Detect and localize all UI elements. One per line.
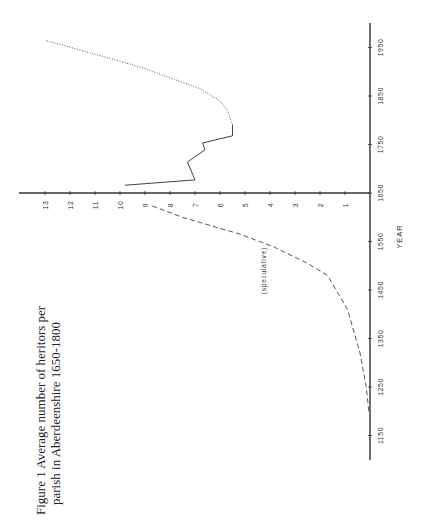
- value-tick-label: 9: [142, 203, 149, 207]
- series-later: [45, 40, 233, 125]
- figure-title-line2: parish in Aberdeenshire 1650-1800: [48, 322, 63, 505]
- year-tick-label: 1850: [377, 87, 384, 105]
- series-speculative: [150, 205, 369, 411]
- year-tick-label: 1750: [377, 136, 384, 154]
- year-tick-label: 1650: [377, 184, 384, 202]
- value-tick-label: 1: [342, 203, 349, 207]
- tick-labels: 1234567891011121311501250135014501550165…: [42, 39, 385, 444]
- data-series: [45, 40, 369, 411]
- value-tick-label: 13: [42, 201, 49, 210]
- value-tick-label: 5: [242, 203, 249, 207]
- heritors-chart: Figure 1 Average number of heritors per …: [0, 0, 424, 521]
- figure-title-line1: Figure 1 Average number of heritors per: [33, 305, 48, 515]
- axes: [19, 23, 372, 460]
- speculative-annotation: (speculative): [260, 247, 268, 294]
- value-tick-label: 11: [92, 201, 99, 209]
- value-tick-label: 6: [217, 203, 224, 207]
- value-tick-label: 12: [67, 201, 74, 210]
- value-tick-label: 7: [192, 203, 199, 207]
- year-tick-label: 1250: [377, 378, 384, 396]
- value-tick-label: 3: [292, 203, 299, 207]
- value-tick-label: 8: [167, 203, 174, 207]
- year-tick-label: 1950: [377, 39, 384, 57]
- value-tick-label: 10: [117, 201, 124, 210]
- year-tick-label: 1350: [377, 330, 384, 348]
- x-axis-title: YEAR: [395, 224, 404, 248]
- year-tick-label: 1150: [377, 427, 384, 444]
- figure-title: Figure 1 Average number of heritors per …: [33, 305, 63, 515]
- value-tick-label: 4: [267, 203, 274, 207]
- year-tick-label: 1450: [377, 281, 384, 299]
- series-recorded: [125, 125, 233, 185]
- value-tick-label: 2: [317, 203, 324, 207]
- year-tick-label: 1550: [377, 233, 384, 251]
